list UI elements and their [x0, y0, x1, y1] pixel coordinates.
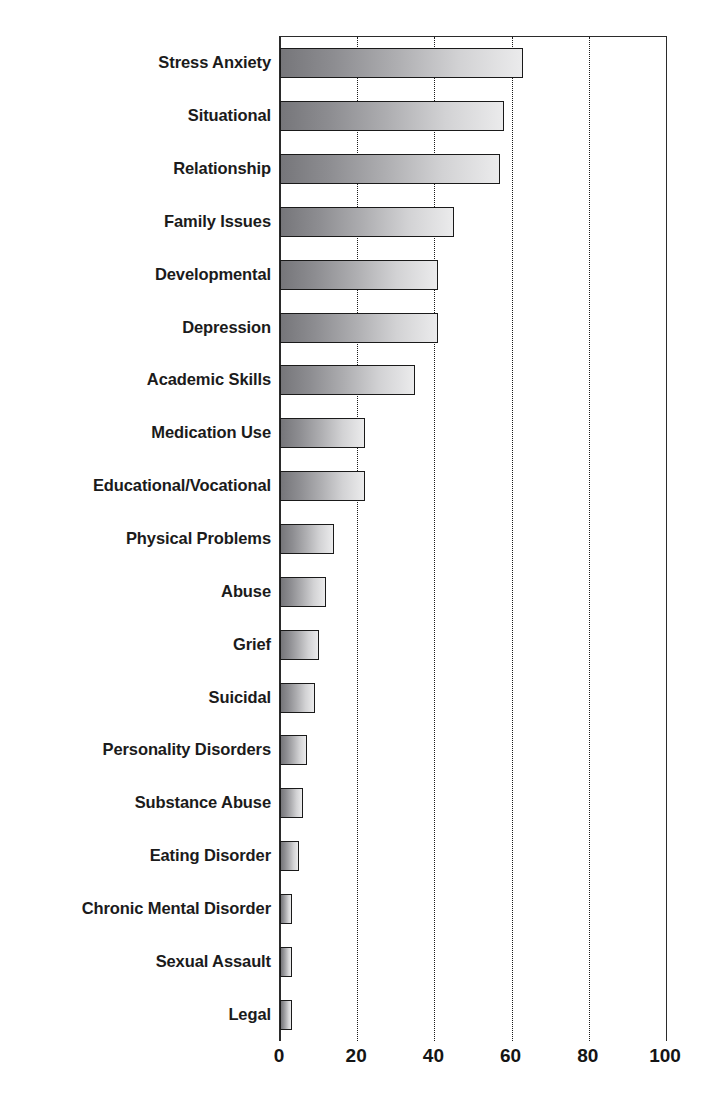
category-label: Medication Use — [0, 424, 271, 441]
bar-row — [280, 841, 666, 871]
category-label: Developmental — [0, 266, 271, 283]
bar-stress-anxiety[interactable] — [280, 48, 523, 78]
bar-sexual-assault[interactable] — [280, 947, 292, 977]
bar-row — [280, 683, 666, 713]
category-label: Stress Anxiety — [0, 54, 271, 71]
category-label: Personality Disorders — [0, 741, 271, 758]
x-tick-label-20: 20 — [346, 1046, 367, 1065]
category-label: Situational — [0, 107, 271, 124]
x-tick-label-100: 100 — [649, 1046, 681, 1065]
category-axis: Stress AnxietySituationalRelationshipFam… — [0, 36, 271, 1040]
value-axis: 020406080100 — [279, 1046, 669, 1080]
bar-chart: Stress AnxietySituationalRelationshipFam… — [0, 0, 726, 1105]
bar-personality-disorders[interactable] — [280, 735, 307, 765]
bar-row — [280, 260, 666, 290]
x-tick-label-60: 60 — [500, 1046, 521, 1065]
bar-legal[interactable] — [280, 1000, 292, 1030]
bar-row — [280, 471, 666, 501]
bar-row — [280, 947, 666, 977]
category-label: Family Issues — [0, 213, 271, 230]
bar-row — [280, 365, 666, 395]
bar-suicidal[interactable] — [280, 683, 315, 713]
bar-abuse[interactable] — [280, 577, 326, 607]
category-label: Abuse — [0, 583, 271, 600]
bar-row — [280, 418, 666, 448]
bar-row — [280, 894, 666, 924]
bar-relationship[interactable] — [280, 154, 500, 184]
bar-row — [280, 101, 666, 131]
bar-row — [280, 788, 666, 818]
bar-eating-disorder[interactable] — [280, 841, 299, 871]
bar-row — [280, 48, 666, 78]
category-label: Physical Problems — [0, 530, 271, 547]
category-label: Academic Skills — [0, 371, 271, 388]
gridline-100 — [666, 37, 667, 1041]
category-label: Sexual Assault — [0, 953, 271, 970]
category-label: Depression — [0, 319, 271, 336]
bar-substance-abuse[interactable] — [280, 788, 303, 818]
bar-educational-vocational[interactable] — [280, 471, 365, 501]
bar-developmental[interactable] — [280, 260, 438, 290]
bar-grief[interactable] — [280, 630, 319, 660]
bar-row — [280, 577, 666, 607]
bar-row — [280, 735, 666, 765]
bar-medication-use[interactable] — [280, 418, 365, 448]
category-label: Relationship — [0, 160, 271, 177]
plot-area — [279, 36, 667, 1041]
category-label: Substance Abuse — [0, 794, 271, 811]
x-tick-label-0: 0 — [274, 1046, 285, 1065]
x-tick-label-40: 40 — [423, 1046, 444, 1065]
category-label: Legal — [0, 1006, 271, 1023]
bar-depression[interactable] — [280, 313, 438, 343]
bar-row — [280, 1000, 666, 1030]
plot-inner — [280, 37, 666, 1041]
category-label: Suicidal — [0, 689, 271, 706]
bar-row — [280, 313, 666, 343]
category-label: Educational/Vocational — [0, 477, 271, 494]
category-label: Chronic Mental Disorder — [0, 900, 271, 917]
bar-family-issues[interactable] — [280, 207, 454, 237]
bar-row — [280, 154, 666, 184]
category-label: Grief — [0, 636, 271, 653]
bar-physical-problems[interactable] — [280, 524, 334, 554]
x-tick-label-80: 80 — [577, 1046, 598, 1065]
bar-row — [280, 207, 666, 237]
bar-academic-skills[interactable] — [280, 365, 415, 395]
category-label: Eating Disorder — [0, 847, 271, 864]
bar-row — [280, 630, 666, 660]
bar-chronic-mental-disorder[interactable] — [280, 894, 292, 924]
bar-situational[interactable] — [280, 101, 504, 131]
bar-row — [280, 524, 666, 554]
